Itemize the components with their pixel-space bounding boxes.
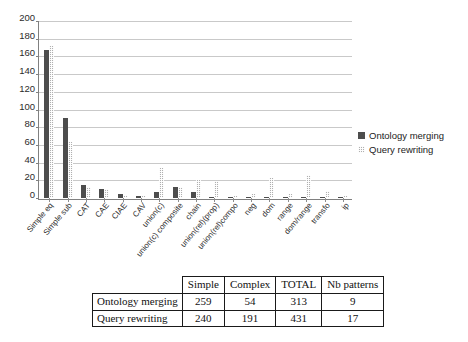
y-axis-tick-label: 40 <box>24 153 35 164</box>
table-header-row: Simple Complex TOTAL Nb patterns <box>93 277 384 294</box>
y-axis-tick-mark <box>36 198 39 199</box>
y-axis-tick-label: 20 <box>24 171 35 182</box>
bar-group <box>40 22 58 198</box>
bar-group <box>260 22 278 198</box>
y-axis-tick-mark <box>36 39 39 40</box>
bar-series-1 <box>178 187 183 198</box>
y-axis-tick-mark <box>36 180 39 181</box>
bar-group <box>224 22 242 198</box>
table-column-header-nb-patterns: Nb patterns <box>322 277 384 294</box>
bar-series-1 <box>159 168 164 198</box>
y-axis-tick-mark <box>36 163 39 164</box>
table-row: Query rewriting 240 191 431 17 <box>93 310 384 327</box>
bar-group <box>150 22 168 198</box>
x-axis-label: transfo <box>310 201 333 226</box>
legend-label-series-0: Ontology merging <box>369 130 444 141</box>
y-axis-tick-mark <box>36 127 39 128</box>
legend-item: Ontology merging <box>358 128 444 142</box>
bar-group <box>77 22 95 198</box>
table-cell: 313 <box>276 293 322 310</box>
bar-chart-figure: 020406080100120140160180200 Simple eqSim… <box>0 0 468 262</box>
y-axis-tick-mark <box>36 74 39 75</box>
bar-group <box>113 22 131 198</box>
plot-area: 020406080100120140160180200 <box>38 22 352 200</box>
table-head: Simple Complex TOTAL Nb patterns <box>93 277 384 294</box>
bar-group <box>242 22 260 198</box>
y-axis-tick-label: 200 <box>19 12 35 23</box>
x-axis-category-labels: Simple eqSimple subCATCAECIAECAVunion(c)… <box>39 201 353 259</box>
y-axis-tick-label: 140 <box>19 65 35 76</box>
bar-series-1 <box>86 187 91 198</box>
chart-legend: Ontology merging Query rewriting <box>358 128 444 156</box>
bar-group <box>279 22 297 198</box>
bar-group <box>205 22 223 198</box>
bar-group <box>334 22 352 198</box>
bars-layer <box>40 22 352 198</box>
x-axis-label: CAE <box>93 201 110 219</box>
summary-table: Simple Complex TOTAL Nb patterns Ontolog… <box>92 276 384 327</box>
x-axis-label: CAT <box>75 201 92 219</box>
series-1-swatch-icon <box>358 146 365 153</box>
table-column-header-complex: Complex <box>224 277 275 294</box>
bar-series-1 <box>306 175 311 198</box>
bar-series-1 <box>196 180 201 198</box>
legend-label-series-1: Query rewriting <box>369 144 433 155</box>
series-0-swatch-icon <box>358 132 365 139</box>
bar-series-1 <box>68 142 73 198</box>
table-column-header-simple: Simple <box>182 277 224 294</box>
bar-group <box>58 22 76 198</box>
x-axis-label: neg <box>243 201 258 217</box>
y-axis-tick-label: 160 <box>19 47 35 58</box>
bar-group <box>315 22 333 198</box>
x-axis-label: ip <box>340 201 351 212</box>
table-cell: 9 <box>322 293 384 310</box>
table-cell: 431 <box>276 310 322 327</box>
y-axis-tick-label: 120 <box>19 82 35 93</box>
table-cell: 259 <box>182 293 224 310</box>
table-body: Ontology merging 259 54 313 9 Query rewr… <box>93 293 384 327</box>
table-row-label-ontology-merging: Ontology merging <box>93 293 183 310</box>
bar-group <box>187 22 205 198</box>
bar-series-1 <box>104 189 109 198</box>
table-cell: 240 <box>182 310 224 327</box>
bar-series-1 <box>325 191 330 198</box>
table-row-label-query-rewriting: Query rewriting <box>93 310 183 327</box>
table-row: Ontology merging 259 54 313 9 <box>93 293 384 310</box>
bar-group <box>169 22 187 198</box>
table-cell: 54 <box>224 293 275 310</box>
x-axis-label: CIAE <box>110 201 129 221</box>
y-axis-tick-label: 80 <box>24 118 35 129</box>
table-column-header-total: TOTAL <box>276 277 322 294</box>
legend-item: Query rewriting <box>358 142 444 156</box>
y-axis-tick-label: 100 <box>19 100 35 111</box>
y-axis-tick-mark <box>36 56 39 57</box>
table-cell: 191 <box>224 310 275 327</box>
y-axis-tick-label: 0 <box>30 189 35 200</box>
bar-group <box>132 22 150 198</box>
y-axis-tick-mark <box>36 92 39 93</box>
y-axis-tick-label: 180 <box>19 29 35 40</box>
bar-group <box>95 22 113 198</box>
y-axis-tick-mark <box>36 110 39 111</box>
bar-series-1 <box>269 178 274 198</box>
y-axis-tick-label: 60 <box>24 135 35 146</box>
bar-series-1 <box>49 46 54 198</box>
y-axis-tick-mark <box>36 21 39 22</box>
table-corner-cell <box>93 277 183 294</box>
bar-group <box>297 22 315 198</box>
bar-series-1 <box>214 181 219 198</box>
y-axis-tick-mark <box>36 145 39 146</box>
table-cell: 17 <box>322 310 384 327</box>
plot-wrap: 020406080100120140160180200 <box>38 22 352 200</box>
